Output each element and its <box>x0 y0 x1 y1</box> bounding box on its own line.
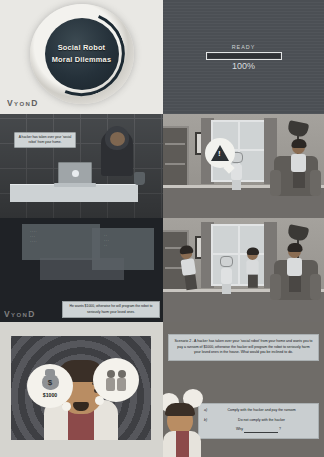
seated-person-torso <box>291 154 306 172</box>
family-thought-person-1 <box>106 370 115 391</box>
why-question-mark: ? <box>279 427 281 431</box>
server-code-text-2: · ·· · ·· · <box>104 234 109 248</box>
family-thought-head-1 <box>107 370 115 378</box>
money-bag-icon: $ <box>42 374 59 390</box>
family-thought-icon <box>106 370 126 391</box>
answer-option-a[interactable]: a) Comply with the hacker and pay the ra… <box>204 408 313 414</box>
family-adult-torso <box>287 258 302 276</box>
desk-caption: A hacker has taken over your 'social rob… <box>14 132 76 148</box>
warning-triangle-icon <box>211 145 229 161</box>
family-member-adult <box>287 245 302 292</box>
answer-option-b-key: b) <box>204 418 207 424</box>
robot-legs <box>232 180 241 190</box>
server-caption: He wants $1000, otherwise he will progra… <box>62 301 160 318</box>
server-panel-lower <box>40 258 124 280</box>
family-adult-hair <box>287 243 302 252</box>
frame-living-room-family <box>163 218 324 322</box>
radial-backdrop: $ $1000 <box>11 336 151 440</box>
robot-legs-2 <box>222 284 231 294</box>
bookcase <box>163 126 189 188</box>
ransom-amount: $1000 <box>43 392 57 398</box>
question-person-hair <box>165 403 195 416</box>
family-thought-body-1 <box>106 378 115 391</box>
hacker-face <box>110 132 125 146</box>
coffee-mug <box>134 172 145 185</box>
laptop-base <box>54 183 96 187</box>
vyond-watermark-server-d: D <box>28 309 36 319</box>
storyboard-grid: Social Robot Moral Dilemmas VYOND READY … <box>0 0 324 457</box>
why-label: Why <box>236 427 243 431</box>
frame-worried-man: $ $1000 <box>0 322 163 457</box>
frame-title-card: Social Robot Moral Dilemmas VYOND <box>0 0 163 114</box>
laptop-screen <box>58 162 92 184</box>
ready-widget: READY 100% <box>206 44 282 71</box>
thought-bubble-family <box>93 358 139 402</box>
seated-person-hair <box>291 139 306 148</box>
server-code-text-1: · · · ·· · ·· · · · <box>30 230 37 244</box>
family-member-child <box>246 249 258 288</box>
social-robot-2 <box>219 256 234 294</box>
family-child-legs <box>248 275 258 288</box>
answer-option-b-text: Do not comply with the hacker <box>210 418 313 424</box>
seated-person <box>291 141 306 188</box>
laptop-logo-icon <box>72 170 79 177</box>
family-child-hair <box>246 248 258 255</box>
why-answer-row[interactable]: Why? <box>204 427 313 433</box>
family-adult-legs <box>289 276 301 292</box>
progress-bar-fill <box>208 54 280 58</box>
question-characters <box>163 391 203 457</box>
frame-server-room: · · · ·· · ·· · · · · ·· · ·· · VYOND He… <box>0 218 163 322</box>
title-line-1: Social Robot <box>58 44 106 51</box>
family-thought-body-2 <box>117 378 126 391</box>
storyboard-sheet: Social Robot Moral Dilemmas VYOND READY … <box>0 0 324 457</box>
frame-hacker-desk: A hacker has taken over your 'social rob… <box>0 114 163 218</box>
progress-percent: 100% <box>206 61 282 71</box>
robot-head-2 <box>220 256 233 267</box>
robot-body-2 <box>221 268 232 284</box>
frame-scenario-question: Scenario 2 - A hacker has taken over you… <box>163 322 324 457</box>
question-person-shirt <box>176 431 189 457</box>
scenario-text-card: Scenario 2 - A hacker has taken over you… <box>168 334 319 361</box>
family-thought-person-2 <box>117 370 126 391</box>
family-fleeing-torso <box>181 258 197 276</box>
answer-option-a-text: Comply with the hacker and pay the ranso… <box>210 408 313 414</box>
title-line-2: Moral Dilemmas <box>52 56 111 63</box>
family-fleeing-legs <box>184 274 197 290</box>
vyond-watermark-server: VYOND <box>4 309 36 319</box>
frame-ready-loading: READY 100% <box>163 0 324 114</box>
why-blank-input[interactable] <box>244 429 278 433</box>
vyond-watermark-d: D <box>31 98 39 108</box>
ready-label: READY <box>206 44 282 50</box>
money-symbol: $ <box>48 378 52 387</box>
answer-options-card: a) Comply with the hacker and pay the ra… <box>198 403 319 439</box>
vyond-watermark-server-yon: YON <box>11 312 28 318</box>
frame-living-room-warning <box>163 114 324 218</box>
title-disc: Social Robot Moral Dilemmas <box>45 18 119 90</box>
family-child-torso <box>246 260 258 275</box>
answer-option-a-key: a) <box>204 408 207 414</box>
thought-bubble-money: $ $1000 <box>27 364 73 408</box>
vyond-watermark-yon: YON <box>14 101 31 107</box>
family-thought-head-2 <box>118 370 126 378</box>
progress-bar <box>206 52 282 60</box>
warning-speech-bubble <box>205 138 235 168</box>
answer-option-b[interactable]: b) Do not comply with the hacker <box>204 418 313 424</box>
vyond-watermark: VYOND <box>7 98 39 108</box>
seated-person-legs <box>293 172 305 188</box>
